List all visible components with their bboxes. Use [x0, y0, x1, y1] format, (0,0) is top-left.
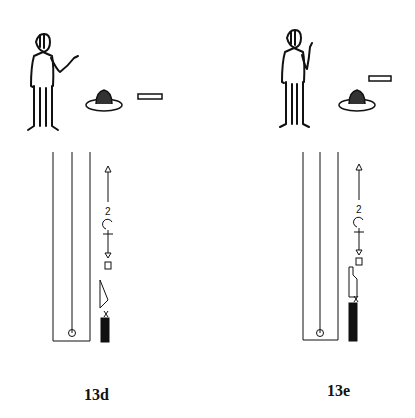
- dish-on-plate: [86, 90, 122, 111]
- flat-bar-object: [138, 94, 162, 99]
- figure-13e: 2 13e: [207, 0, 414, 418]
- flat-bar-object: [369, 76, 391, 81]
- svg-text:2: 2: [356, 204, 362, 215]
- labanotation-staff: [303, 152, 338, 340]
- labanotation-staff: [53, 152, 90, 341]
- figure-13e-drawing: 2: [207, 0, 414, 418]
- person-figure: [280, 30, 312, 127]
- svg-text:2: 2: [105, 206, 111, 217]
- score-symbols: 2: [349, 164, 364, 341]
- score-symbols: 2: [100, 166, 113, 342]
- dish-on-plate: [339, 90, 375, 111]
- person-figure: [28, 34, 78, 130]
- figure-13d-drawing: 2: [0, 0, 207, 418]
- figure-caption-13e: 13e: [327, 382, 350, 400]
- figure-caption-13d: 13d: [84, 386, 109, 404]
- figure-13d: 2 13d: [0, 0, 207, 418]
